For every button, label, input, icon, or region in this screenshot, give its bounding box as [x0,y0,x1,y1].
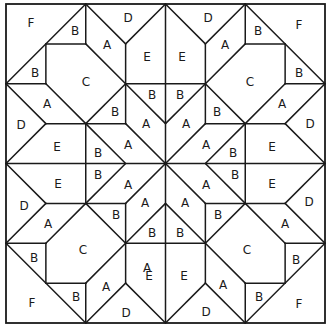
piece-label-e: E [268,177,276,191]
piece-label-d: D [123,11,132,25]
piece-label-f: F [296,18,303,32]
piece-label-b: B [94,146,102,160]
piece-label-f: F [28,16,35,30]
piece-label-a: A [43,97,52,111]
piece-label-a: A [278,97,287,111]
piece-label-b: B [30,251,38,265]
piece-label-b: B [229,146,237,160]
piece-label-b: B [94,168,102,182]
piece-label-a: A [202,178,211,192]
piece-label-b: B [176,88,184,102]
piece-label-e: E [178,50,186,64]
piece-label-e: E [53,140,61,154]
piece-label-c: C [79,243,87,257]
piece-label-d: D [19,199,28,213]
piece-label-b: B [214,208,222,222]
piece-label-d: D [305,117,314,131]
piece-label-e: E [180,269,188,283]
piece-label-e: E [268,140,276,154]
piece-label-a: A [182,117,191,131]
piece-label-a: A [219,278,228,292]
piece-label-a: A [221,38,230,52]
piece-label-d: D [16,118,25,132]
piece-label-d: D [121,306,130,320]
piece-label-e: E [54,177,62,191]
piece-label-a: A [103,38,112,52]
piece-label-b: B [295,66,303,80]
piece-label-c: C [246,75,254,89]
piece-label-d: D [203,11,212,25]
piece-label-d: D [304,195,313,209]
piece-label-b: B [112,208,120,222]
piece-label-b: B [148,226,156,240]
piece-label-e: E [143,50,151,64]
piece-label-d: D [201,305,210,319]
piece-label-f: F [296,297,303,311]
piece-label-b: B [231,168,239,182]
piece-label-b: B [111,105,119,119]
piece-label-c: C [82,75,90,89]
piece-label-a: A [202,138,211,152]
piece-label-a: A [281,217,290,231]
quilt-diagram: FBDAEBCADEBBAABDFBEABCBBADAABEEBADAABBCB… [0,0,329,327]
piece-label-a: A [102,280,111,294]
piece-label-b: B [213,105,221,119]
piece-label-b: B [255,290,263,304]
piece-label-a: A [124,138,133,152]
piece-label-e: E [145,269,153,283]
piece-label-f: F [29,296,36,310]
piece-label-b: B [31,66,39,80]
piece-label-a: A [44,217,53,231]
piece-label-b: B [176,226,184,240]
piece-label-b: B [254,24,262,38]
piece-label-b: B [292,253,300,267]
piece-label-b: B [148,88,156,102]
piece-label-a: A [181,196,190,210]
piece-label-b: B [71,24,79,38]
piece-label-a: A [142,117,151,131]
piece-label-c: C [243,243,251,257]
piece-label-a: A [141,196,150,210]
piece-label-b: B [72,290,80,304]
piece-label-a: A [124,178,133,192]
